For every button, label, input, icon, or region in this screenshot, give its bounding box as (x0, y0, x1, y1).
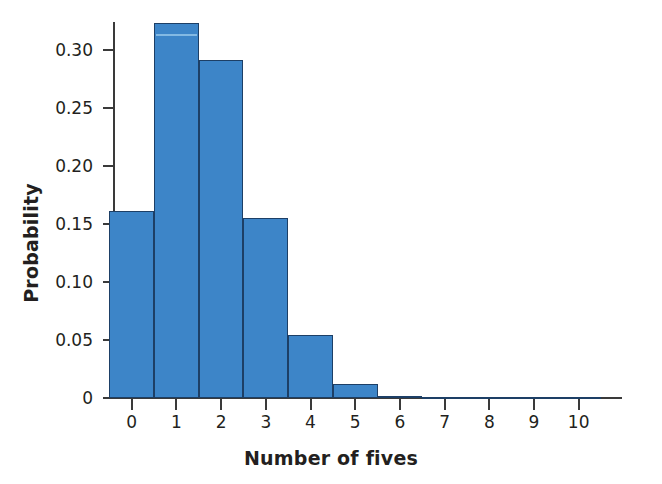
bar-7 (422, 397, 467, 399)
x-tick-8 (488, 399, 490, 410)
x-tick-1 (175, 399, 177, 410)
x-tick-0 (131, 399, 133, 410)
histogram-figure: Probability Number of fives 00.050.100.1… (0, 0, 662, 484)
bar-2 (199, 60, 244, 398)
x-tick-6 (399, 399, 401, 410)
x-tick-10 (578, 399, 580, 410)
x-tick-label-7: 7 (425, 412, 465, 432)
y-tick-4 (103, 165, 114, 167)
x-axis-title: Number of fives (0, 447, 662, 469)
x-tick-label-10: 10 (559, 412, 599, 432)
x-tick-label-8: 8 (469, 412, 509, 432)
bar-10 (556, 397, 601, 399)
x-tick-label-4: 4 (291, 412, 331, 432)
y-tick-5 (103, 107, 114, 109)
x-tick-label-3: 3 (246, 412, 286, 432)
bar-1 (154, 23, 199, 398)
bar-0 (109, 211, 154, 398)
y-tick-label-1: 0.05 (27, 330, 93, 350)
y-tick-label-0: 0 (27, 388, 93, 408)
bar-3 (243, 218, 288, 398)
x-tick-label-1: 1 (156, 412, 196, 432)
y-axis-title: Probability (20, 148, 42, 338)
bar-highlight-streak (156, 34, 197, 36)
bar-8 (467, 397, 512, 399)
y-tick-label-2: 0.10 (27, 272, 93, 292)
x-tick-5 (354, 399, 356, 410)
x-tick-9 (533, 399, 535, 410)
x-tick-label-0: 0 (112, 412, 152, 432)
x-tick-label-5: 5 (335, 412, 375, 432)
x-tick-3 (265, 399, 267, 410)
bar-5 (333, 384, 378, 398)
x-tick-2 (220, 399, 222, 410)
y-tick-6 (103, 49, 114, 51)
y-tick-label-6: 0.30 (27, 40, 93, 60)
x-tick-7 (444, 399, 446, 410)
x-tick-4 (310, 399, 312, 410)
bar-4 (288, 335, 333, 398)
y-tick-label-3: 0.15 (27, 214, 93, 234)
x-tick-label-2: 2 (201, 412, 241, 432)
bar-6 (378, 396, 423, 398)
x-tick-label-6: 6 (380, 412, 420, 432)
y-tick-label-5: 0.25 (27, 98, 93, 118)
x-tick-label-9: 9 (514, 412, 554, 432)
bar-9 (512, 397, 557, 399)
y-tick-label-4: 0.20 (27, 156, 93, 176)
